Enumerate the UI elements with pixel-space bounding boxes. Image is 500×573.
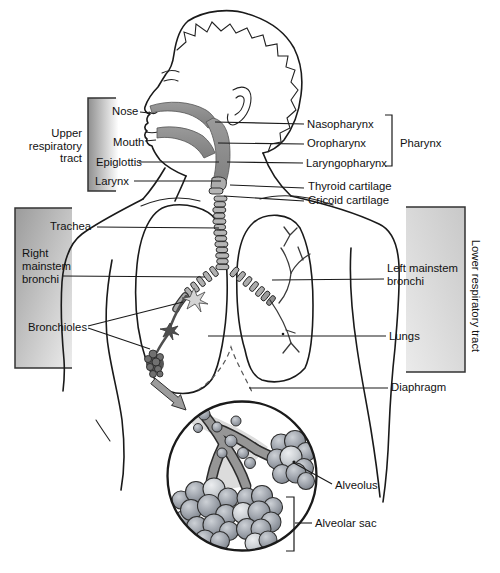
- upper-tract-label-line1: Upper: [51, 127, 82, 139]
- mouth-line: [146, 132, 158, 133]
- oral-passage: [157, 127, 215, 158]
- eyebrow: [162, 71, 179, 73]
- oropharynx-label: Oropharynx: [307, 137, 366, 149]
- magnifier-arrow: [151, 378, 186, 410]
- cricoid-cartilage-shape: [209, 188, 223, 194]
- nose-label: Nose: [112, 105, 138, 117]
- larynx-shape: [209, 177, 226, 194]
- diaphragm-label: Diaphragm: [391, 381, 446, 393]
- terminal-cluster: [145, 350, 165, 378]
- eye: [164, 80, 178, 82]
- neck-back: [263, 153, 291, 196]
- alveolus-label: Alveolus: [335, 479, 378, 491]
- left-mainstem-label-line2: bronchi: [387, 275, 424, 287]
- elbow-crease: [96, 420, 110, 441]
- trachea-label: Trachea: [50, 220, 92, 232]
- nasopharynx-label: Nasopharynx: [307, 118, 374, 130]
- throat-line: [175, 176, 186, 201]
- lower-tract-right-box: [406, 207, 465, 372]
- bronchial-branches: [270, 227, 310, 353]
- right-torso-line: [350, 248, 380, 497]
- trachea-rings: [213, 196, 229, 270]
- trachea-leader: [97, 227, 219, 228]
- oropharynx-leader: [218, 143, 304, 144]
- left-torso-line: [106, 260, 124, 490]
- mouth-label: Mouth: [113, 136, 144, 148]
- lower-tract-label: Lower respiratory tract: [470, 240, 482, 353]
- right-mainstem-label-line2: mainstem: [22, 260, 71, 272]
- right-mainstem-leader: [62, 276, 205, 277]
- bronchioles-label: Bronchioles: [28, 321, 87, 333]
- larynx-label: Larynx: [95, 175, 129, 187]
- alveolus-leader-dot: [292, 460, 295, 463]
- ear-inner: [235, 96, 244, 115]
- diagram-canvas: Upper respiratory tract Nose Mouth Epigl…: [0, 0, 500, 573]
- pharynx-label: Pharynx: [400, 137, 442, 149]
- ear-outline: [227, 87, 251, 125]
- left-mainstem-label-line1: Left mainstem: [387, 262, 458, 274]
- airway-upper: [150, 102, 230, 189]
- lungs-leader-dot: [282, 333, 285, 336]
- ear: [227, 87, 251, 125]
- right-mainstem-label-line3: bronchi: [22, 273, 59, 285]
- left-mainstem-leader: [272, 279, 384, 280]
- alveolar-sac-label: Alveolar sac: [315, 517, 377, 529]
- respiratory-system-diagram: Upper respiratory tract Nose Mouth Epigl…: [0, 0, 500, 573]
- upper-tract-label-line2: respiratory: [29, 140, 83, 152]
- neck-front: [143, 168, 165, 199]
- epiglottis-label: Epiglottis: [96, 156, 142, 168]
- laryngopharynx-leader: [227, 162, 303, 163]
- right-mainstem-label-line1: Right: [22, 247, 49, 259]
- cricoid-cartilage-label: Cricoid cartilage: [308, 194, 389, 206]
- bronchiole-tuft-dark: [160, 323, 179, 340]
- upper-tract-label-line3: tract: [60, 152, 83, 164]
- bronchiole-stem-lower: [157, 333, 169, 352]
- lungs-label: Lungs: [389, 330, 420, 342]
- thyroid-leader: [230, 185, 304, 188]
- thyroid-cartilage-label: Thyroid cartilage: [308, 180, 392, 192]
- laryngopharynx-label: Laryngopharynx: [306, 157, 387, 169]
